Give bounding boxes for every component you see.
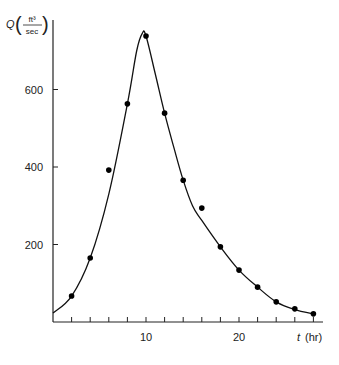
fitted-curve — [53, 31, 313, 314]
hydrograph-line — [53, 31, 313, 314]
data-point — [162, 110, 168, 116]
x-tick-label: 10 — [140, 331, 152, 343]
data-point — [218, 244, 224, 250]
y-axis-symbol: Q — [6, 18, 15, 30]
data-point — [143, 33, 149, 39]
y-axis-unit-num: ft³ — [28, 15, 35, 24]
x-axis-unit: (hr) — [305, 331, 322, 343]
axes — [53, 20, 323, 322]
data-points — [69, 33, 316, 316]
data-point — [273, 299, 279, 305]
y-axis-paren-left: ( — [15, 13, 22, 35]
y-tick-label: 200 — [25, 239, 43, 251]
y-axis-paren-right: ) — [42, 13, 49, 35]
data-point — [180, 177, 186, 183]
y-tick-label: 400 — [25, 161, 43, 173]
y-axis-unit-den: sec — [26, 27, 38, 36]
data-point — [255, 284, 261, 290]
data-point — [311, 311, 317, 317]
x-axis-symbol: t — [297, 331, 301, 343]
data-point — [199, 205, 205, 211]
x-tick-label: 20 — [233, 331, 245, 343]
data-point — [236, 267, 242, 273]
data-point — [125, 101, 131, 107]
data-point — [87, 255, 93, 261]
y-tick-label: 600 — [25, 84, 43, 96]
data-point — [106, 167, 112, 173]
data-point — [69, 293, 75, 299]
hydrograph-chart: 1020200400600Q(ft³sec)t(hr) — [0, 0, 339, 365]
data-point — [292, 306, 298, 312]
